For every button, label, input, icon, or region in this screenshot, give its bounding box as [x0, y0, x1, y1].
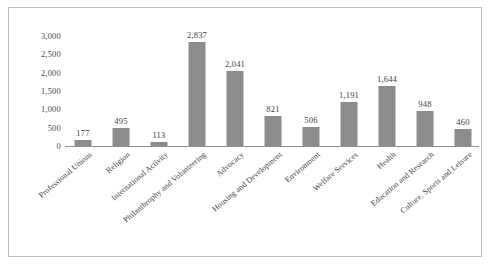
bar-slot: 177 — [64, 36, 102, 146]
bar-value-label: 821 — [266, 104, 279, 114]
x-axis-line — [65, 146, 479, 147]
y-tick-label: 1,000 — [17, 104, 61, 114]
x-tick-label: Education and Research — [369, 150, 436, 208]
y-tick-label: 2,000 — [17, 68, 61, 78]
bar[interactable] — [303, 127, 320, 146]
bar-value-label: 177 — [76, 128, 89, 138]
x-tick-label: Health — [375, 150, 398, 171]
x-tick-label: Housing and Development — [211, 150, 284, 213]
bar[interactable] — [113, 128, 130, 146]
y-tick-label: 500 — [17, 123, 61, 133]
plot-area: 1774951132,8372,0418215061,1911,64494846… — [65, 36, 477, 146]
x-tick-label: Environment — [283, 150, 322, 184]
bar-value-label: 1,644 — [377, 74, 397, 84]
bar-slot: 2,041 — [216, 36, 254, 146]
y-tick-label: 3,000 — [17, 31, 61, 41]
bar[interactable] — [417, 111, 434, 146]
bar-value-label: 2,041 — [225, 59, 245, 69]
y-tick-label: 1,500 — [17, 86, 61, 96]
bar[interactable] — [227, 71, 244, 146]
x-tick-label: Advocacy — [215, 150, 246, 178]
bar[interactable] — [455, 129, 472, 146]
bar-value-label: 113 — [152, 130, 165, 140]
bar[interactable] — [341, 102, 358, 146]
y-tick-label: 0 — [17, 141, 61, 151]
bar-slot: 460 — [444, 36, 482, 146]
bar-value-label: 506 — [304, 115, 317, 125]
bar-slot: 495 — [102, 36, 140, 146]
bar-slot: 506 — [292, 36, 330, 146]
bar-slot: 113 — [140, 36, 178, 146]
x-tick-label: Culture, Sports and Leisure — [399, 150, 474, 215]
bar[interactable] — [189, 42, 206, 146]
bar-value-label: 2,837 — [187, 30, 207, 40]
bar-value-label: 495 — [114, 116, 127, 126]
y-axis: 05001,0001,5002,0002,5003,000 — [13, 36, 61, 146]
x-axis: Professional UnionsReligionInternational… — [65, 148, 477, 248]
bar-value-label: 1,191 — [339, 90, 359, 100]
bar-slot: 1,644 — [368, 36, 406, 146]
chart-frame: 05001,0001,5002,0002,5003,000 1774951132… — [8, 7, 482, 257]
y-tick-label: 2,500 — [17, 49, 61, 59]
x-tick-label: Religion — [104, 150, 132, 175]
bar-slot: 1,191 — [330, 36, 368, 146]
bar-slot: 821 — [254, 36, 292, 146]
bar-slot: 948 — [406, 36, 444, 146]
x-tick-label: Professional Unions — [37, 150, 94, 200]
bar[interactable] — [379, 86, 396, 146]
bar-value-label: 948 — [418, 99, 431, 109]
bar-slot: 2,837 — [178, 36, 216, 146]
bar[interactable] — [265, 116, 282, 146]
bar-value-label: 460 — [456, 117, 469, 127]
